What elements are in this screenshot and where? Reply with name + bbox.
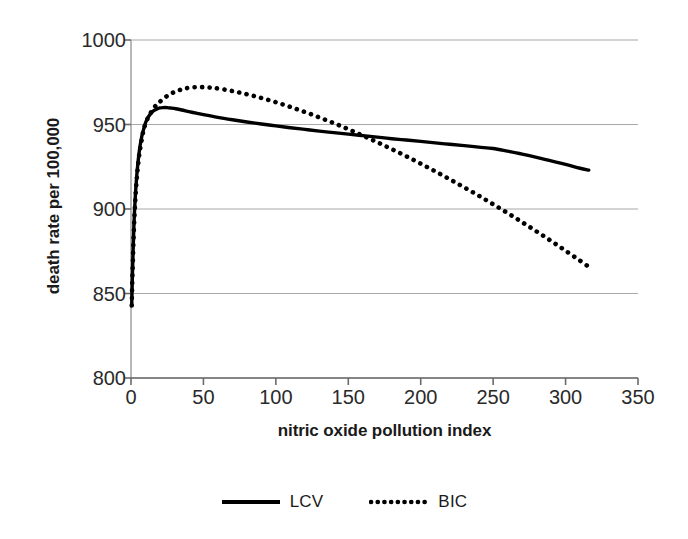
y-axis-ticks: 8008509009501000 bbox=[56, 0, 126, 539]
x-tick-label: 200 bbox=[391, 386, 451, 409]
legend-swatch-solid bbox=[221, 495, 281, 509]
legend-label-lcv: LCV bbox=[290, 492, 324, 512]
x-tick-label: 250 bbox=[463, 386, 523, 409]
legend-swatch-dotted bbox=[369, 495, 429, 509]
legend-item-bic: BIC bbox=[369, 492, 467, 512]
x-tick-label: 350 bbox=[608, 386, 668, 409]
series-line-bic bbox=[132, 87, 589, 305]
x-tick-label: 50 bbox=[173, 386, 233, 409]
legend-item-lcv: LCV bbox=[221, 492, 324, 512]
y-tick-label: 950 bbox=[56, 113, 126, 136]
x-tick-label: 150 bbox=[318, 386, 378, 409]
legend-label-bic: BIC bbox=[438, 492, 467, 512]
chart-figure: death rate per 100,000 nitric oxide poll… bbox=[0, 0, 688, 539]
series-line-lcv bbox=[132, 108, 589, 306]
y-tick-label: 850 bbox=[56, 282, 126, 305]
x-tick-label: 300 bbox=[536, 386, 596, 409]
chart-legend: LCV BIC bbox=[0, 492, 688, 512]
x-tick-label: 100 bbox=[246, 386, 306, 409]
y-tick-label: 1000 bbox=[56, 29, 126, 52]
y-tick-label: 900 bbox=[56, 198, 126, 221]
x-axis-title: nitric oxide pollution index bbox=[131, 421, 638, 441]
x-tick-label: 0 bbox=[101, 386, 161, 409]
